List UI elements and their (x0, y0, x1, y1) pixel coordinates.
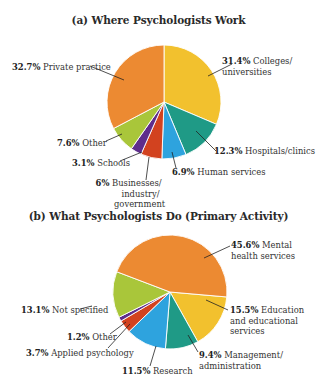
label-a-private-practice: 32.7% Private practice (12, 62, 111, 73)
leader-line (150, 346, 156, 366)
label-a-schools: 3.1% Schools (72, 158, 130, 169)
leader-line (146, 157, 149, 180)
label-b-not-specified: 13.1% Not specified (21, 305, 108, 316)
label-b-mental-health: 45.6% Mentalhealth services (231, 240, 295, 261)
label-a-business: 6% Businesses/industry/government (92, 178, 165, 210)
label-a-other: 7.6% Other (57, 138, 107, 149)
label-a-hospitals: 12.3% Hospitals/clinics (214, 146, 315, 157)
label-b-applied-psychology: 3.7% Applied psychology (26, 348, 134, 359)
label-b-education: 15.5% Educationand educationalservices (230, 305, 304, 337)
label-a-human-services: 6.9% Human services (172, 167, 266, 178)
label-a-colleges: 31.4% Colleges/universities (222, 56, 292, 77)
label-b-other: 1.2% Other (67, 332, 117, 343)
label-b-management: 9.4% Management/administration (199, 350, 283, 371)
label-b-research: 11.5% Research (122, 366, 193, 377)
